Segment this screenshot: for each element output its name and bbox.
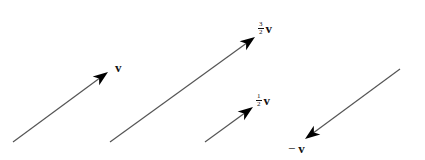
- vector-diagram: [0, 0, 425, 160]
- label-v: v: [115, 61, 122, 74]
- label-fraction: 1 2: [256, 93, 262, 108]
- label-symbol: v: [298, 142, 305, 155]
- vector-negative-v: [305, 69, 400, 139]
- fraction-denominator: 2: [258, 29, 264, 36]
- fraction-denominator: 2: [256, 101, 262, 108]
- label-symbol: v: [115, 61, 122, 74]
- label-three-halves-v: 3 2 v: [258, 21, 272, 36]
- vector-three-halves-v: [110, 37, 255, 142]
- label-fraction: 3 2: [258, 21, 264, 36]
- label-sign: −: [288, 142, 295, 155]
- vector-v-shaft: [13, 79, 99, 142]
- label-symbol: v: [264, 94, 271, 107]
- arrowhead-icon: [93, 72, 108, 85]
- vector-negative-v-shaft: [314, 69, 400, 132]
- vector-half-v-shaft: [205, 113, 244, 142]
- label-half-v: 1 2 v: [256, 93, 270, 108]
- arrowhead-icon: [305, 126, 320, 139]
- vector-half-v: [205, 107, 253, 142]
- arrowhead-icon: [240, 37, 255, 50]
- label-negative-v: − v: [288, 142, 305, 155]
- vector-v: [13, 72, 108, 142]
- arrowhead-icon: [238, 107, 253, 120]
- label-symbol: v: [266, 22, 273, 35]
